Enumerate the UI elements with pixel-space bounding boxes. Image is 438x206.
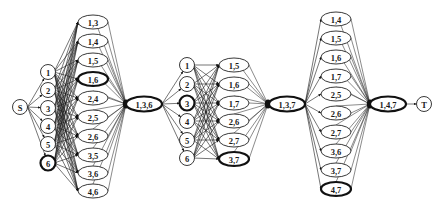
single-node: 6 [180,151,195,166]
single-node: 5 [41,137,56,152]
pair-node: 1,5 [321,31,351,45]
single-node: 6 [41,156,56,171]
node-label: 3 [46,104,50,114]
single-node: 5 [180,133,195,148]
edge [336,104,370,106]
result-node: 1,4,7 [370,97,406,112]
node-label: 2,7 [229,136,240,146]
single-node: 3 [180,96,195,111]
node-label: 1,4,7 [380,100,398,110]
pair-node: 3,7 [321,163,351,177]
pair-node: 1,7 [219,96,249,110]
edge [249,84,268,104]
pair-node: 1,5 [78,53,108,67]
edge [162,89,181,104]
pair-node: 2,5 [78,110,108,124]
node-label: 2,6 [331,109,342,119]
node-label: 3,7 [229,155,240,165]
node-label: 6 [185,154,189,164]
node-label: 3,5 [88,151,99,161]
single-node: 1 [180,58,195,73]
pair-node: 1,5 [219,58,249,72]
node-label: 1,7 [331,72,342,82]
pair-node: 1,6 [219,77,249,91]
node-label: 4,6 [88,187,99,197]
pair-node: 4,6 [78,184,108,198]
pair-node: 2,4 [78,91,108,105]
node-label: 2 [185,80,189,90]
node-label: 1,4 [331,15,342,25]
pair-node: 1,3 [78,15,108,29]
pair-node: 3,6 [321,144,351,158]
node-label: 2,4 [88,94,99,104]
node-label: 1,3,7 [279,100,297,110]
edge [193,158,219,159]
node-label: 3,6 [331,147,342,157]
pair-node: 1,7 [321,69,351,83]
node-label: 4,7 [331,185,342,195]
single-node: 2 [180,77,195,92]
edge [108,41,126,104]
node-label: 6 [46,159,50,169]
node-label: 1,3,6 [136,100,153,110]
node-label: 2 [46,86,50,96]
node-label: 1,6 [88,75,99,85]
edge [305,104,321,170]
edge [305,104,321,189]
single-node: 2 [41,83,56,98]
node-label: 5 [46,140,50,150]
edge [162,103,180,104]
pair-node: 1,4 [78,34,108,48]
node-label: S [18,103,23,113]
single-node: 1 [41,65,56,80]
edge [305,38,321,104]
node-label: 2,6 [229,117,240,127]
pair-node: 2,7 [321,125,351,139]
pair-node: 2,7 [219,133,249,147]
node-label: 1,6 [229,80,240,90]
pair-node: 3,7 [219,152,249,166]
node-label: 5 [185,136,189,146]
node-label: 1,6 [331,53,342,63]
node-label: 3,6 [88,169,99,179]
result-node: 1,3,7 [269,97,305,112]
pair-node: 2,6 [321,106,351,120]
node-label: 1 [185,61,189,71]
node-label: T [421,100,427,110]
edge [249,65,268,104]
pair-node: 2,6 [78,129,108,143]
pair-node: 3,6 [78,166,108,180]
node-label: 1,7 [229,99,240,109]
source-node: S [13,100,28,115]
node-label: 2,7 [331,128,342,138]
edge [305,19,321,104]
sink-node: T [417,97,432,112]
node-label: 3,7 [331,166,342,176]
edge [108,104,126,173]
node-label: 2,5 [88,113,99,123]
node-label: 2,5 [331,90,342,100]
node-label: 1,5 [229,61,240,71]
pair-node: 3,5 [78,148,108,162]
edge [351,104,370,189]
edge [28,95,43,107]
edge [108,60,126,104]
single-node: 4 [41,119,56,134]
pair-node: 1,6 [321,50,351,64]
node-label: 1 [46,68,50,78]
single-node: 4 [180,114,195,129]
pair-node: 1,4 [321,12,351,26]
pair-node: 2,5 [321,87,351,101]
node-label: 1,5 [88,56,99,66]
node-label: 3 [185,99,189,109]
edge [351,19,370,104]
node-label: 1,4 [88,37,99,47]
pair-node: 2,6 [219,114,249,128]
pair-node: 1,6 [78,72,108,86]
edge [54,163,78,173]
node-label: 2,6 [88,132,99,142]
edge [28,107,41,108]
result-node: 1,3,6 [126,97,162,112]
node-label: 1,3 [88,18,99,28]
pair-node: 4,7 [321,182,351,196]
